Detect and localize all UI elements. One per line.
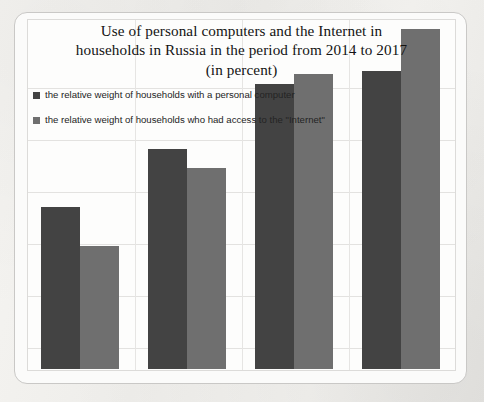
legend-item-label: the relative weight of households with a… — [45, 89, 295, 101]
bar-series2-cat2 — [187, 168, 226, 369]
chart-title-line-1: Use of personal computers and the Intern… — [27, 21, 456, 40]
chart-title-line-3: (in percent) — [27, 60, 456, 79]
chart-legend: the relative weight of households with a… — [33, 89, 363, 138]
chart-title-line-2: households in Russia in the period from … — [27, 40, 456, 59]
bar-series1-cat1 — [41, 207, 80, 369]
category-axis-line — [28, 370, 455, 371]
square-marker-icon — [33, 92, 40, 99]
bar-series1-cat4 — [362, 71, 401, 369]
legend-item-internet-access[interactable]: the relative weight of households who ha… — [33, 114, 363, 126]
legend-item-personal-computer[interactable]: the relative weight of households with a… — [33, 89, 363, 101]
bar-series1-cat2 — [148, 149, 187, 369]
square-marker-icon — [33, 117, 40, 124]
bar-series2-cat1 — [80, 246, 119, 369]
bar-series2-cat4 — [401, 29, 440, 369]
chart-title: Use of personal computers and the Intern… — [27, 21, 456, 79]
legend-item-label: the relative weight of households who ha… — [45, 114, 325, 126]
